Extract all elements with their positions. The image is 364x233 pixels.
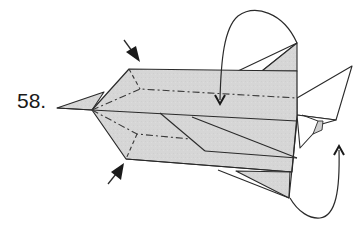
push-arrow-top-icon: [124, 40, 140, 62]
fold-under-arrow-bottom-icon: [290, 146, 344, 218]
right-fin: [297, 66, 352, 148]
push-arrow-bottom-icon: [108, 163, 124, 184]
main-body: [92, 69, 297, 172]
top-wing-flap: [238, 43, 297, 71]
origami-diagram: [0, 0, 364, 233]
